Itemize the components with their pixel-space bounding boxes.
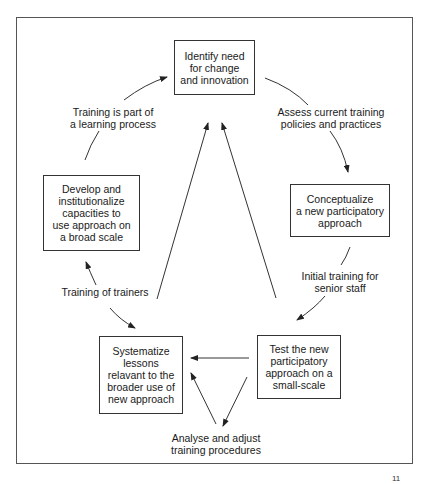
- arrow-assess-to-conceptualize: [330, 131, 348, 172]
- arrow-test-to-identify: [222, 123, 276, 298]
- label-assess-practices: Assess current training policies and pra…: [266, 106, 396, 130]
- node-develop-capacities: Develop and institutionalize capacities …: [43, 175, 140, 251]
- arrow-identify-to-assess: [265, 78, 308, 105]
- arrow-trainers-to-systematize: [110, 308, 135, 328]
- node-systematize-lessons: Systematize lessons relavant to the broa…: [99, 336, 183, 414]
- arrow-learning-to-identify: [124, 77, 167, 100]
- label-initial-training: Initial training for senior staff: [290, 270, 390, 294]
- label-training-of-trainers: Training of trainers: [55, 286, 155, 298]
- arrow-conceptualize-to-initial: [341, 247, 350, 265]
- label-learning-process: Training is part of a learning process: [63, 106, 163, 130]
- arrow-test-to-analyse: [223, 377, 247, 426]
- arrow-initial-to-test: [297, 296, 325, 320]
- node-conceptualize-approach: Conceptualize a new participatory approa…: [290, 184, 390, 237]
- corner-mark: 11: [392, 474, 400, 483]
- label-analyse-adjust: Analyse and adjust training procedures: [166, 432, 266, 456]
- arrow-analyse-to-systematize: [191, 373, 216, 424]
- arrow-trainers-to-develop: [86, 262, 96, 285]
- arrow-develop-to-learning: [85, 131, 99, 160]
- node-identify-need: Identify need for change and innovation: [174, 40, 255, 95]
- arrow-systematize-to-identify: [157, 123, 208, 299]
- node-test-approach: Test the new participatory approach on a…: [257, 335, 341, 399]
